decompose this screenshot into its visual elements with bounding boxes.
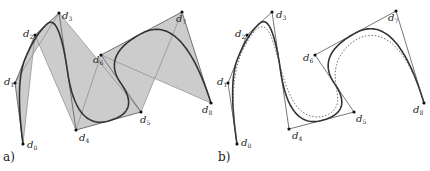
panel-b-label: b): [218, 150, 230, 164]
bspline-diagram: d0d1d2d3d4d5d6d7d8 d0d1d2d3d4d5d6d7d8: [0, 0, 430, 171]
control-point-d6: [313, 53, 316, 56]
control-point-d2: [33, 33, 36, 36]
control-point-label-d6: d6: [303, 52, 313, 64]
bspline-curve-degree-3-dotted: [233, 27, 424, 144]
control-point-label-d8: d8: [202, 104, 212, 116]
control-point-label-d1: d1: [4, 76, 14, 88]
control-point-label-d2: d2: [23, 28, 33, 40]
control-point-d6: [99, 53, 102, 56]
control-point-label-d7: d7: [176, 13, 186, 25]
control-point-label-d4: d4: [292, 130, 302, 142]
control-point-label-d3: d3: [62, 10, 72, 22]
control-point-d0: [235, 142, 238, 145]
control-point-label-d4: d4: [79, 132, 89, 144]
control-point-label-d2: d2: [235, 28, 245, 40]
control-point-d0: [21, 142, 24, 145]
panel-a-label: a): [3, 150, 15, 164]
control-point-d8: [209, 101, 212, 104]
control-point-label-d1: d1: [217, 76, 227, 88]
control-point-d2: [245, 33, 248, 36]
control-point-label-d3: d3: [276, 9, 286, 21]
control-point-label-d8: d8: [413, 104, 423, 116]
control-point-d3: [57, 11, 60, 14]
panel-a-quadratic-bspline-convex-hull: d0d1d2d3d4d5d6d7d8: [4, 10, 213, 151]
control-point-d7: [394, 9, 397, 12]
control-point-d4: [74, 128, 77, 131]
control-point-label-d0: d0: [241, 137, 251, 149]
control-point-d4: [287, 127, 290, 130]
control-point-d3: [270, 10, 273, 13]
panel-b-bspline-degree-comparison: d0d1d2d3d4d5d6d7d8: [217, 9, 426, 149]
control-point-label-d0: d0: [27, 139, 37, 151]
bspline-curve-degree-2-solid: [233, 22, 424, 144]
control-point-label-d5: d5: [140, 114, 150, 126]
control-polygon: [228, 11, 424, 144]
control-point-d8: [422, 101, 425, 104]
control-point-label-d5: d5: [356, 113, 366, 125]
